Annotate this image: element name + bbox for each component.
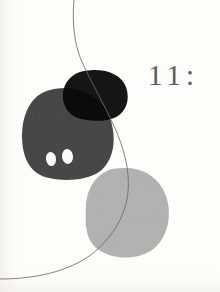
- left-edge-shadow: [0, 0, 26, 292]
- artwork-page: 11:: [0, 0, 220, 292]
- abstract-artwork: [0, 0, 220, 292]
- page-number: 11:: [148, 58, 210, 92]
- light-gray-blob: [86, 168, 169, 258]
